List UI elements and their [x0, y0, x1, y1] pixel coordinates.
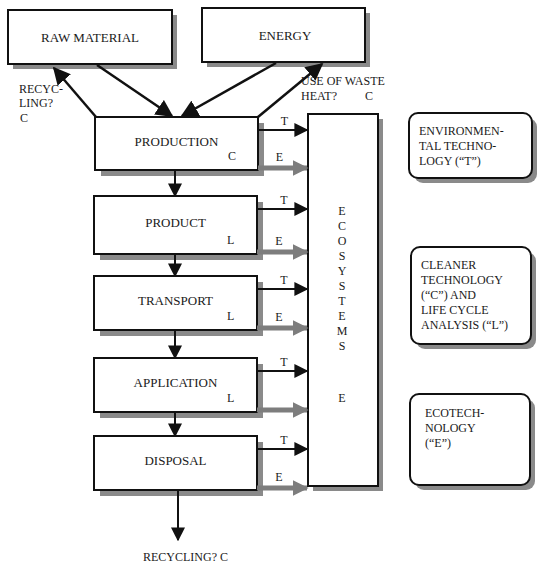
t-arrow-label: T [280, 193, 288, 207]
energy-label: ENERGY [259, 28, 312, 43]
recycling-top-line2: LING? [19, 96, 53, 110]
stage-product: PRODUCTLTE [94, 193, 307, 276]
ecosystems-letter: O [338, 234, 347, 248]
legend-cleaner-technology: CLEANERTECHNOLOGY(“C”) ANDLIFE CYCLEANAL… [411, 247, 536, 349]
legend-line: ECOTECH- [425, 406, 484, 420]
ecosystems-letter: S [339, 339, 346, 353]
legend-line: TECHNOLOGY [421, 273, 503, 287]
legend-ecotechnology: ECOTECH-NOLOGY(“E”) [410, 394, 535, 490]
ecosystems-letter: E [338, 204, 345, 218]
stage-production: PRODUCTIONCTE [95, 114, 307, 196]
waste-heat-tag: C [365, 89, 373, 103]
e-arrow-label: E [276, 150, 283, 164]
legend-line: ENVIRONMEN- [419, 124, 504, 138]
ecosystems-letter: S [339, 279, 346, 293]
stage-label: APPLICATION [134, 375, 218, 390]
diagram-canvas: RAW MATERIAL ENERGY RECYC- LING? C USE O… [0, 0, 542, 569]
stage-label: PRODUCT [145, 215, 206, 230]
arrow-energy-to-production [182, 63, 276, 116]
ecosystems-box: ECOSYSTEMS E [308, 114, 383, 491]
ecosystems-letter: S [339, 249, 346, 263]
raw-material-box: RAW MATERIAL [8, 10, 177, 69]
energy-box: ENERGY [202, 8, 370, 67]
stage-tag: C [228, 149, 236, 163]
legend-line: (“E”) [425, 436, 451, 450]
ecosystems-letter: C [338, 219, 346, 233]
raw-material-label: RAW MATERIAL [41, 30, 139, 45]
stage-tag: L [227, 309, 234, 323]
legend-line: LOGY (“T”) [419, 154, 481, 168]
recycling-top-tag: C [20, 111, 28, 125]
ecosystems-letter: E [338, 309, 345, 323]
stage-transport: TRANSPORTLTE [94, 273, 307, 358]
ecosystems-letter: Y [338, 264, 347, 278]
legend-line: NOLOGY [425, 421, 476, 435]
legend-line: LIFE CYCLE [421, 303, 489, 317]
stage-label: TRANSPORT [138, 293, 213, 308]
stage-label: PRODUCTION [135, 134, 219, 149]
stage-tag: L [227, 233, 234, 247]
e-arrow-label: E [275, 310, 282, 324]
stage-disposal: DISPOSALTE [94, 433, 307, 540]
waste-heat-line2: HEAT? [301, 89, 337, 103]
t-arrow-label: T [280, 355, 288, 369]
legend-line: CLEANER [421, 258, 476, 272]
legend-environmental-technology: ENVIRONMEN-TAL TECHNO-LOGY (“T”) [409, 113, 537, 183]
arrow-raw-to-production [97, 65, 172, 116]
ecosystems-letter: T [338, 294, 346, 308]
ecosystems-tag: E [338, 391, 345, 405]
recycling-bottom-label: RECYCLING? C [143, 550, 228, 564]
e-arrow-label: E [275, 234, 282, 248]
stage-tag: L [227, 391, 234, 405]
legend: ENVIRONMEN-TAL TECHNO-LOGY (“T”)CLEANERT… [409, 113, 537, 490]
t-arrow-label: T [281, 114, 289, 128]
legend-line: (“C”) AND [421, 288, 476, 302]
legend-line: TAL TECHNO- [419, 139, 496, 153]
legend-line: ANALYSIS (“L”) [421, 318, 508, 332]
t-arrow-label: T [280, 433, 288, 447]
lifecycle-stages: PRODUCTIONCTEPRODUCTLTETRANSPORTLTEAPPLI… [94, 114, 307, 540]
stage-application: APPLICATIONLT [94, 355, 307, 436]
stage-label: DISPOSAL [144, 453, 206, 468]
t-arrow-label: T [280, 273, 288, 287]
e-arrow-label: E [275, 470, 282, 484]
recycling-top-line1: RECYC- [19, 82, 63, 96]
ecosystems-letter: M [337, 324, 348, 338]
waste-heat-line1: USE OF WASTE [301, 74, 385, 88]
